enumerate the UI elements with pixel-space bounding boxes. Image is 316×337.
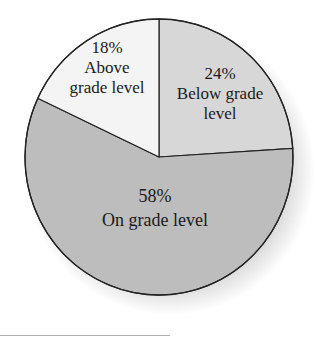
text-above-1: Above — [52, 58, 162, 78]
text-on-1: On grade level — [70, 208, 240, 232]
percent-on: 58% — [70, 184, 240, 208]
label-below-grade: 24% Below grade level — [160, 64, 280, 124]
label-above-grade: 18% Above grade level — [52, 38, 162, 98]
divider-line — [0, 335, 170, 336]
text-below-2: level — [160, 104, 280, 124]
label-on-grade: 58% On grade level — [70, 184, 240, 232]
text-above-2: grade level — [52, 78, 162, 98]
percent-below: 24% — [160, 64, 280, 84]
text-below-1: Below grade — [160, 84, 280, 104]
percent-above: 18% — [52, 38, 162, 58]
